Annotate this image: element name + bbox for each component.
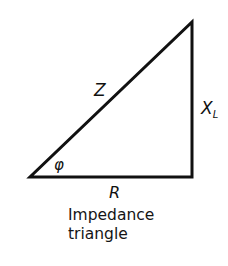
label-x: X xyxy=(201,98,213,118)
label-z-hypotenuse: Z xyxy=(94,82,106,99)
label-subscript-l: L xyxy=(213,109,219,120)
triangle-shape xyxy=(30,22,192,177)
label-xl-reactance: XL xyxy=(201,100,218,120)
label-phi-angle: φ xyxy=(54,158,64,173)
label-r-resistance: R xyxy=(109,185,120,201)
caption-line-2: triangle xyxy=(68,225,154,244)
diagram-caption: Impedance triangle xyxy=(68,206,154,244)
caption-line-1: Impedance xyxy=(68,206,154,225)
